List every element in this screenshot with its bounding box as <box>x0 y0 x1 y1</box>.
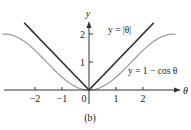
x-axis-arrow-icon <box>174 88 181 93</box>
x-tick-label: 1 <box>114 93 119 104</box>
y-tick-label: 2 <box>80 29 85 40</box>
y-tick-label: 1 <box>80 57 85 68</box>
figure-caption: (b) <box>84 112 96 124</box>
x-tick-label: −1 <box>57 93 68 104</box>
x-tick-label: 2 <box>141 93 146 104</box>
y-axis-label: y <box>85 8 91 19</box>
x-axis-label: θ <box>183 85 188 96</box>
one-minus-cos-label: y = 1 − cos θ <box>128 66 178 76</box>
x-tick-label: 0 <box>82 93 87 104</box>
labels: −2−101212θyy = |θ|y = 1 − cos θ(b) <box>30 8 188 124</box>
y-axis-arrow-icon <box>87 21 92 28</box>
x-tick-label: −2 <box>30 93 41 104</box>
chart-svg: −2−101212θyy = |θ|y = 1 − cos θ(b) <box>0 0 191 130</box>
abs-theta-label: y = |θ| <box>108 25 131 35</box>
chart: −2−101212θyy = |θ|y = 1 − cos θ(b) <box>0 0 191 130</box>
axes <box>4 21 181 104</box>
